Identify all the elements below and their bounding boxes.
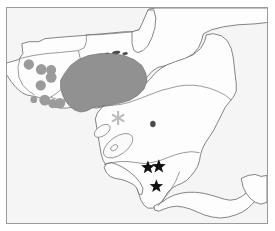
circle-locality-marker-1: [24, 59, 34, 69]
circle-locality-marker-2: [36, 64, 47, 75]
map-frame-border: [6, 7, 268, 224]
map-canvas: [7, 8, 267, 223]
circle-locality-marker-5: [36, 80, 46, 90]
distribution-map-figure: [0, 0, 275, 231]
caribbean-coast-islet: [150, 121, 155, 127]
circle-locality-marker-9: [30, 96, 37, 103]
circle-locality-marker-8: [55, 98, 65, 108]
circle-locality-marker-4: [46, 72, 57, 83]
